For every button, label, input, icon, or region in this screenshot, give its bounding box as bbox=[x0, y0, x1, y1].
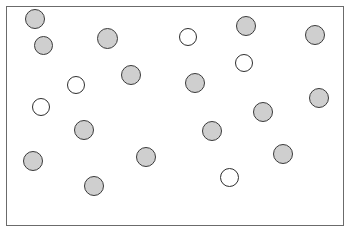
circle-filled-15 bbox=[84, 176, 104, 196]
circle-distribution-diagram bbox=[0, 0, 351, 233]
circle-filled-4 bbox=[121, 65, 141, 85]
circle-filled-3 bbox=[97, 28, 118, 49]
circle-filled-1 bbox=[25, 9, 45, 29]
circle-filled-9 bbox=[253, 102, 273, 122]
circle-open-3 bbox=[235, 54, 253, 72]
circle-filled-14 bbox=[23, 151, 43, 171]
circle-filled-2 bbox=[34, 36, 53, 55]
circle-filled-5 bbox=[185, 73, 205, 93]
circle-filled-8 bbox=[309, 88, 329, 108]
circle-open-5 bbox=[220, 168, 239, 187]
circle-open-1 bbox=[179, 28, 197, 46]
circle-filled-7 bbox=[305, 25, 325, 45]
circle-filled-13 bbox=[136, 147, 156, 167]
plot-frame bbox=[6, 6, 344, 226]
circle-filled-10 bbox=[74, 120, 94, 140]
circle-open-4 bbox=[32, 98, 50, 116]
circle-filled-6 bbox=[236, 16, 256, 36]
circle-filled-12 bbox=[273, 144, 293, 164]
circle-open-2 bbox=[67, 76, 85, 94]
circle-filled-11 bbox=[202, 121, 222, 141]
